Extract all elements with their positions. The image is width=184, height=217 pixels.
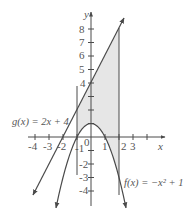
y-tick-label: -2 — [79, 158, 88, 170]
graph-canvas: y x -4 -3 -2 -1 0 1 2 3 8 7 6 5 4 -2 -3 … — [0, 0, 184, 217]
y-axis-label: y — [83, 8, 89, 20]
y-tick-label: 7 — [79, 36, 85, 48]
y-tick-label: 6 — [79, 49, 85, 61]
y-tick-label: 4 — [80, 77, 86, 89]
y-tick-label: 5 — [79, 63, 85, 75]
x-tick-label: -2 — [57, 140, 66, 152]
f-function-label: f(x) = −x² + 1 — [124, 177, 183, 189]
g-function-label: g(x) = 2x + 4 — [12, 116, 69, 128]
y-tick-label: 8 — [79, 23, 85, 35]
y-tick-label: -4 — [79, 184, 89, 196]
origin-label: 0 — [84, 136, 90, 148]
y-tick-label: -3 — [79, 171, 89, 183]
x-tick-label: 3 — [130, 140, 136, 152]
x-tick-label: -4 — [28, 140, 38, 152]
x-tick-label: 2 — [121, 140, 127, 152]
x-tick-label: -1 — [75, 142, 84, 154]
x-tick-label: -3 — [43, 140, 53, 152]
x-tick-label: 1 — [102, 140, 108, 152]
x-axis-label: x — [157, 140, 163, 152]
